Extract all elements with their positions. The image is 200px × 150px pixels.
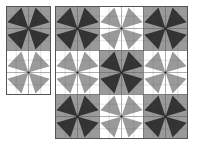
right-pattern-panel	[55, 6, 188, 139]
left-panel-svg	[6, 6, 51, 95]
pinwheel-block-gray-on-white	[144, 51, 188, 95]
pinwheel-block-gray-on-white	[56, 51, 100, 95]
pinwheel-block-dark-on-gray	[100, 51, 144, 95]
left-pattern-panel	[6, 6, 51, 95]
pinwheel-block-gray-on-white	[100, 95, 144, 139]
pinwheel-block-dark-on-gray	[56, 7, 100, 51]
right-panel-svg	[55, 6, 188, 139]
pinwheel-block-dark-on-gray	[144, 95, 188, 139]
pinwheel-block-dark-on-gray	[144, 7, 188, 51]
pinwheel-block-gray-on-white	[7, 51, 51, 95]
pinwheel-block-gray-on-white	[100, 7, 144, 51]
pinwheel-block-dark-on-gray	[7, 7, 51, 51]
pinwheel-block-dark-on-gray	[56, 95, 100, 139]
